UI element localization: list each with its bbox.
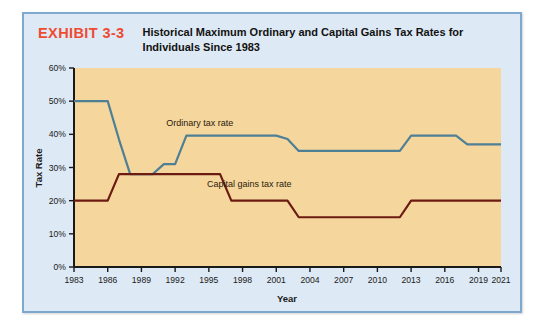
x-tick-label: 1983 (64, 275, 83, 285)
x-tick-label: 2021 (491, 275, 510, 285)
x-axis-title: Year (277, 293, 297, 304)
y-axis-title: Tax Rate (33, 149, 44, 188)
x-tick-label: 1998 (233, 275, 252, 285)
x-tick-label: 2010 (368, 275, 387, 285)
y-tick-label: 0% (54, 262, 67, 272)
x-tick-label: 1995 (199, 275, 218, 285)
y-tick-label: 40% (49, 129, 67, 139)
exhibit-panel: EXHIBIT 3-3 Historical Maximum Ordinary … (22, 12, 522, 313)
y-tick-label: 20% (49, 196, 67, 206)
x-tick-label: 1986 (98, 275, 117, 285)
x-axis: 1983198619891992199519982001200420072010… (64, 267, 510, 285)
y-tick-label: 50% (49, 96, 67, 106)
y-tick-label: 30% (49, 163, 67, 173)
y-tick-label: 10% (49, 229, 67, 239)
x-tick-label: 2016 (435, 275, 454, 285)
tax-rate-line-chart: 0%10%20%30%40%50%60% 1983198619891992199… (24, 14, 524, 315)
x-tick-label: 1989 (132, 275, 151, 285)
series-annotation-label: Ordinary tax rate (166, 118, 233, 128)
plot-background (74, 68, 501, 267)
x-tick-label: 2007 (334, 275, 353, 285)
y-tick-label: 60% (49, 63, 67, 73)
x-tick-label: 2001 (267, 275, 286, 285)
y-axis: 0%10%20%30%40%50%60% (49, 63, 74, 272)
x-tick-label: 2013 (402, 275, 421, 285)
x-tick-label: 2004 (300, 275, 319, 285)
chart-container: 0%10%20%30%40%50%60% 1983198619891992199… (24, 14, 524, 315)
x-tick-label: 1992 (166, 275, 185, 285)
x-tick-label: 2019 (469, 275, 488, 285)
series-annotation-label: Capital gains tax rate (207, 179, 292, 189)
